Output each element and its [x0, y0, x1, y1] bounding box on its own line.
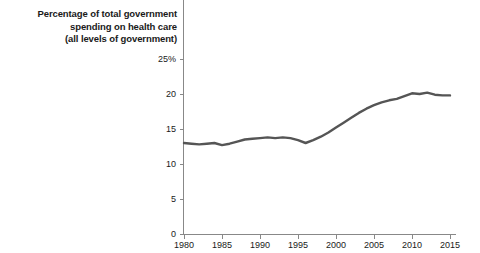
x-tick-label-1985: 1985 [212, 240, 232, 250]
x-tick-label-2000: 2000 [326, 240, 346, 250]
y-tick-label-25: 25% [140, 54, 176, 64]
y-tick-label-15: 15 [140, 124, 176, 134]
x-tick-label-2015: 2015 [440, 240, 460, 250]
y-tick-label-0: 0 [140, 229, 176, 239]
x-tick-label-2005: 2005 [364, 240, 384, 250]
x-tick-label-1980: 1980 [174, 240, 194, 250]
y-tick-label-20: 20 [140, 89, 176, 99]
tick-marks [180, 59, 451, 239]
axes [184, 0, 457, 235]
chart-canvas [0, 0, 480, 253]
y-tick-label-10: 10 [140, 159, 176, 169]
plot-area: 0510152025%19801985199019952000200520102… [0, 0, 480, 253]
data-series-line [184, 93, 450, 146]
x-tick-label-1990: 1990 [250, 240, 270, 250]
y-tick-label-5: 5 [140, 194, 176, 204]
x-tick-label-2010: 2010 [402, 240, 422, 250]
x-tick-label-1995: 1995 [288, 240, 308, 250]
chart-page: Percentage of total government spending … [0, 0, 480, 253]
